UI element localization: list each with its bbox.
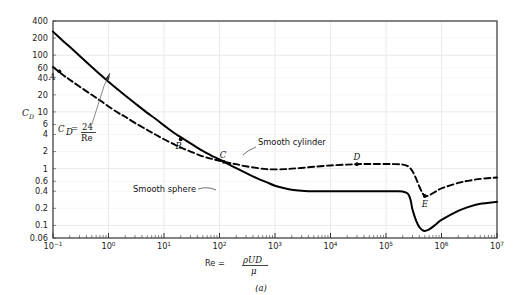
figure-container: 4002001006040201064210.60.40.20.10.06 10… <box>0 0 522 295</box>
y-tick-label: 400 <box>32 16 48 26</box>
y-tick-label: 20 <box>38 90 48 100</box>
stokes-equation-lhs: C <box>58 124 65 134</box>
data-point-label-a: A <box>48 72 55 82</box>
y-tick-label: 10 <box>38 107 48 117</box>
stokes-equation-equals: = <box>71 124 78 134</box>
data-point-label-c: C <box>220 150 227 160</box>
y-tick-label: 0.1 <box>35 220 48 230</box>
y-tick-label: 0.4 <box>35 186 48 196</box>
data-point-label-e: E <box>421 199 429 209</box>
data-point-c <box>222 160 226 164</box>
y-tick-label: 0.6 <box>35 176 48 186</box>
stokes-equation-numerator: 24 <box>82 122 93 132</box>
y-tick-label: 60 <box>38 63 48 73</box>
data-point-d <box>355 162 359 166</box>
y-tick-label: 4 <box>43 129 48 139</box>
data-point-label-b: B <box>175 141 182 151</box>
x-axis-title-prefix: Re = <box>205 258 225 268</box>
y-tick-label: 2 <box>43 146 48 156</box>
y-tick-label: 6 <box>43 119 48 129</box>
data-point-a <box>57 69 61 73</box>
smooth-cylinder-label: Smooth cylinder <box>258 137 326 147</box>
x-axis-title-denominator: μ <box>251 266 257 276</box>
data-point-e <box>423 194 427 198</box>
y-tick-label: 0.2 <box>35 203 48 213</box>
y-tick-label: 100 <box>32 50 48 60</box>
drag-coefficient-chart: 4002001006040201064210.60.40.20.10.06 10… <box>0 0 522 295</box>
stokes-equation-denominator: Re <box>81 133 92 143</box>
y-tick-label: 200 <box>32 33 48 43</box>
x-axis-title-numerator: ρUD <box>242 255 262 265</box>
data-point-label-d: D <box>353 152 361 162</box>
smooth-sphere-label: Smooth sphere <box>133 184 196 194</box>
figure-caption: (a) <box>255 283 267 293</box>
y-tick-label: 1 <box>43 164 48 174</box>
y-tick-label: 40 <box>38 73 48 83</box>
